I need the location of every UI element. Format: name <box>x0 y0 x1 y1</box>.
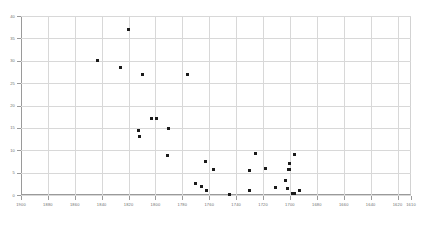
gridline-horizontal <box>21 38 411 39</box>
x-axis-tick-label: 1680 <box>302 202 332 207</box>
x-axis-tick <box>263 196 264 200</box>
y-axis-tick-label: 30 <box>0 58 15 63</box>
data-point <box>284 179 287 182</box>
data-point <box>200 185 203 188</box>
x-axis-tick <box>155 196 156 200</box>
y-axis-tick <box>17 195 21 196</box>
x-axis-tick <box>182 196 183 200</box>
x-axis-tick-label: 1720 <box>248 202 278 207</box>
gridline-vertical <box>209 16 210 195</box>
x-axis-tick <box>411 196 412 200</box>
gridline-vertical <box>317 16 318 195</box>
data-point <box>119 66 122 69</box>
data-point <box>141 73 144 76</box>
x-axis-tick <box>21 196 22 200</box>
y-axis-tick <box>17 128 21 129</box>
x-axis-tick-label: 1740 <box>221 202 251 207</box>
x-axis-tick <box>75 196 76 200</box>
data-point <box>298 189 301 192</box>
x-axis-tick-label: 1860 <box>60 202 90 207</box>
data-point <box>248 189 251 192</box>
x-axis-tick <box>398 196 399 200</box>
y-axis-tick-label: 0 <box>0 193 15 198</box>
y-axis-tick-label: 25 <box>0 81 15 86</box>
gridline-horizontal <box>21 106 411 107</box>
data-point <box>212 168 215 171</box>
data-point <box>204 160 207 163</box>
data-point <box>186 73 189 76</box>
x-axis-tick-label: 1610 <box>396 202 426 207</box>
x-axis-tick <box>290 196 291 200</box>
data-point <box>264 167 267 170</box>
data-point <box>166 154 169 157</box>
y-axis-tick-label: 10 <box>0 148 15 153</box>
gridline-vertical <box>371 16 372 195</box>
y-axis-tick-label: 35 <box>0 36 15 41</box>
x-axis-tick-label: 1840 <box>87 202 117 207</box>
data-point <box>287 168 290 171</box>
data-point <box>205 189 208 192</box>
y-axis-tick <box>17 61 21 62</box>
data-point <box>254 152 257 155</box>
gridline-horizontal <box>21 128 411 129</box>
data-point <box>288 162 291 165</box>
data-point <box>274 186 277 189</box>
x-axis-tick <box>48 196 49 200</box>
data-point <box>293 153 296 156</box>
data-point <box>286 187 289 190</box>
x-axis-tick <box>102 196 103 200</box>
y-axis-tick <box>17 106 21 107</box>
data-point <box>228 193 231 196</box>
y-axis-tick-label: 20 <box>0 103 15 108</box>
data-point <box>127 28 130 31</box>
y-axis-tick <box>17 38 21 39</box>
data-point <box>293 192 296 195</box>
y-axis-tick-label: 5 <box>0 170 15 175</box>
x-axis-tick <box>236 196 237 200</box>
gridline-horizontal <box>21 195 411 196</box>
gridline-vertical <box>182 16 183 195</box>
gridline-horizontal <box>21 173 411 174</box>
gridline-horizontal <box>21 61 411 62</box>
gridline-vertical <box>155 16 156 195</box>
y-axis-tick-label: 15 <box>0 125 15 130</box>
data-point <box>137 129 140 132</box>
y-axis-tick-label: 40 <box>0 14 15 19</box>
x-axis-tick-label: 1780 <box>167 202 197 207</box>
x-axis-tick <box>209 196 210 200</box>
x-axis-tick-label: 1660 <box>329 202 359 207</box>
x-axis-tick-label: 1760 <box>194 202 224 207</box>
x-axis-tick-label: 1820 <box>114 202 144 207</box>
data-point <box>150 117 153 120</box>
data-point <box>167 127 170 130</box>
data-point <box>155 117 158 120</box>
gridline-vertical <box>129 16 130 195</box>
gridline-vertical <box>75 16 76 195</box>
data-point <box>96 59 99 62</box>
x-axis-tick <box>344 196 345 200</box>
x-axis-tick <box>371 196 372 200</box>
y-axis-tick <box>17 150 21 151</box>
gridline-vertical <box>344 16 345 195</box>
scatter-chart: 1900188018601840182018001780176017401720… <box>0 0 429 230</box>
gridline-vertical <box>236 16 237 195</box>
x-axis-tick-label: 1900 <box>6 202 36 207</box>
gridline-vertical <box>102 16 103 195</box>
x-axis-tick-label: 1880 <box>33 202 63 207</box>
gridline-horizontal <box>21 150 411 151</box>
gridline-horizontal <box>21 83 411 84</box>
data-point <box>138 135 141 138</box>
y-axis-tick <box>17 83 21 84</box>
data-point <box>248 169 251 172</box>
x-axis-tick <box>129 196 130 200</box>
y-axis-tick <box>17 173 21 174</box>
x-axis-tick-label: 1800 <box>140 202 170 207</box>
gridline-horizontal <box>21 16 411 17</box>
x-axis-tick-label: 1700 <box>275 202 305 207</box>
x-axis-tick <box>317 196 318 200</box>
gridline-vertical <box>48 16 49 195</box>
gridline-vertical <box>398 16 399 195</box>
y-axis-tick <box>17 16 21 17</box>
data-point <box>194 182 197 185</box>
x-axis-tick-label: 1640 <box>356 202 386 207</box>
